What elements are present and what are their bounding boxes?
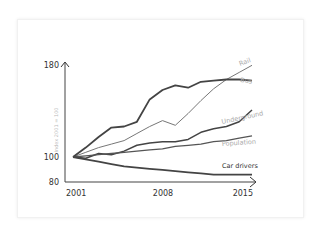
label-population: Population xyxy=(222,138,257,148)
y-tick-180: 180 xyxy=(44,61,59,70)
label-underground: Underground xyxy=(221,109,264,126)
x-tick-2015: 2015 xyxy=(233,189,253,198)
line-chart: 180 100 80 Index 2001 = 100 2001 2008 20… xyxy=(0,0,321,233)
y-tick-80: 80 xyxy=(49,178,59,187)
label-car-drivers: Car drivers xyxy=(222,162,258,170)
y-tick-100: 100 xyxy=(44,153,59,162)
label-bus: Bus xyxy=(240,76,254,86)
x-tick-2008: 2008 xyxy=(153,189,173,198)
y-axis-title: Index 2001 = 100 xyxy=(53,108,59,153)
x-tick-2001: 2001 xyxy=(66,189,86,198)
